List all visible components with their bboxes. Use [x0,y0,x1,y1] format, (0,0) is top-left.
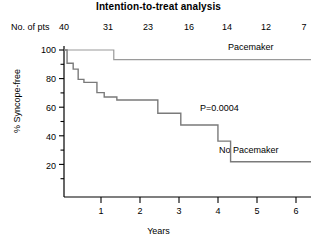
axis-lines [64,46,311,197]
x-axis-ticks [101,197,296,203]
y-axis-ticks [59,50,64,179]
series-line-no-pacemaker [64,50,311,162]
series-line-pacemaker [64,50,311,60]
plot-canvas [0,0,317,241]
kaplan-meier-figure: Intention-to-treat analysis No. of pts 4… [0,0,317,241]
